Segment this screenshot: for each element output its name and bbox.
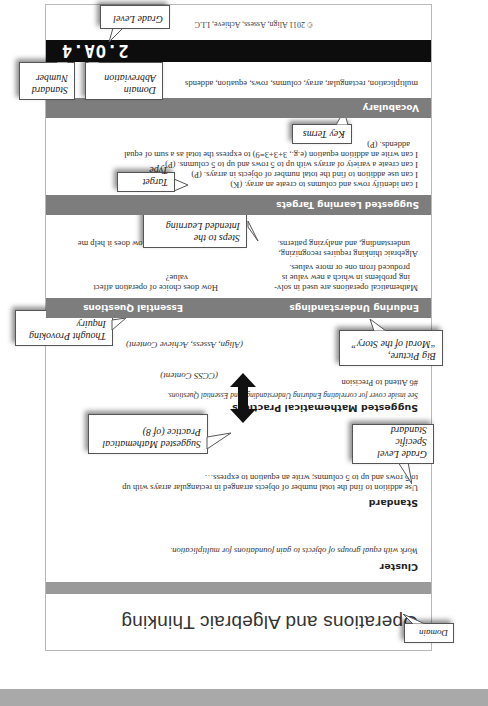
callout-domain: Domain — [404, 623, 454, 643]
practices-label: Suggested Mathematical Practices — [232, 403, 418, 414]
rotated-page: Operations and Algebraic Thinking Domain… — [0, 0, 488, 706]
callout-suggested-practice-tail — [206, 431, 231, 451]
callout-target-type-tail — [174, 177, 188, 191]
learning-target: I can create a variety of arrays with up… — [48, 160, 418, 170]
practices-note: See inside cover for correlating Endurin… — [167, 391, 418, 400]
vocabulary-header: Vocabulary — [46, 98, 431, 118]
callout-suggested-practice: Suggested Mathematical Practice (of 8) — [88, 414, 208, 454]
callout-domain-abbrev-line-2: Abbreviation — [92, 72, 156, 84]
callout-domain-text: Domain — [419, 628, 448, 638]
standard-line-2: to 5 rows and up to 5 columns; write an … — [48, 473, 418, 483]
callout-target-type: Target Type — [117, 172, 175, 192]
callout-domain-tail — [403, 614, 425, 624]
callout-thought-provoking-tail — [111, 316, 126, 330]
practice-item: #6 Attend to Precision — [341, 378, 418, 388]
learning-target: I can use addition to find the total num… — [48, 170, 418, 180]
standard-code: 2.OA.4 — [61, 40, 128, 62]
aaa-content-label: (Align, Assess, Achieve Content) — [126, 340, 243, 350]
callout-steps-line-2: Intended Learning — [150, 220, 240, 232]
learning-target: I can write an addition equation (e.g., … — [48, 150, 418, 160]
copyright: © 2011 Align, Assess, Achieve, LLC — [195, 20, 313, 29]
callout-big-picture: Big Picture, “Moral of the Story” — [339, 330, 443, 366]
callout-steps-tail — [246, 221, 260, 241]
callout-steps: Steps to the Intended Learning — [143, 210, 247, 248]
enduring-line: understanding, and analyzing patterns. — [243, 239, 418, 249]
callout-big-picture-tail — [368, 319, 388, 331]
callout-steps-line-1: Steps to the — [150, 232, 240, 244]
learning-targets-label: Suggested Learning Targets — [276, 195, 419, 215]
callout-standard-number-line-1: Standard — [26, 84, 68, 96]
enduring-line: produced from one or more values. — [243, 263, 418, 273]
standard-code-bar: 2.OA.4 — [46, 40, 431, 62]
double-arrow-icon — [230, 373, 256, 423]
callout-standard-number-line-2: Number — [26, 72, 68, 84]
callout-domain-abbrev: Domain Abbreviation — [85, 62, 163, 100]
learning-target: addends. (P) — [48, 140, 418, 150]
cluster-text: Work with equal groups of objects to gai… — [170, 546, 418, 556]
callout-grade-level: Grade Level — [100, 5, 170, 29]
callout-big-picture-line-1: Big Picture, — [346, 350, 436, 362]
learning-targets-header: Suggested Learning Targets — [46, 195, 431, 215]
essential-line: How does choice of operation affect — [48, 283, 218, 293]
callout-domain-abbrev-line-1: Domain — [92, 84, 156, 96]
callout-standard-number: Standard Number — [19, 62, 75, 100]
callout-thought-provoking-line-1: Thought Provoking — [22, 330, 106, 342]
callout-grade-specific-tail — [396, 462, 412, 484]
callout-grade-specific: Grade Level Specific Standard — [352, 424, 434, 464]
callout-grade-level-text: Grade Level — [113, 14, 163, 25]
callout-big-picture-line-2: “Moral of the Story” — [346, 338, 436, 350]
cluster-label: Cluster — [380, 562, 418, 573]
enduring-essential-header: Enduring Understandings Essential Questi… — [46, 298, 431, 318]
enduring-line: ing problems in which a new value is — [243, 273, 418, 283]
enduring-line: Mathematical operations are used in solv… — [243, 283, 418, 293]
standard-line-1: Use addition to find the total number of… — [48, 483, 418, 493]
learning-target: I can identify rows and columns to creat… — [48, 180, 418, 190]
top-gray-bar — [0, 689, 488, 706]
enduring-list: Mathematical operations are used in solv… — [243, 239, 418, 293]
title-divider — [46, 582, 431, 594]
standard-text: Use addition to find the total number of… — [48, 473, 418, 493]
callout-key-terms-text: Key Terms — [303, 129, 345, 140]
ccss-content-label: (CCSS Content) — [160, 371, 218, 381]
domain-title: Operations and Algebraic Thinking — [121, 611, 418, 633]
callout-grade-specific-line-2: Specific Standard — [359, 424, 427, 448]
vocabulary-label: Vocabulary — [363, 98, 419, 118]
essential-line: value? — [48, 273, 218, 283]
learning-targets-list: I can identify rows and columns to creat… — [48, 140, 418, 190]
callout-thought-provoking-line-2: Inquiry — [22, 318, 106, 330]
enduring-line: Algebraic thinking requires recognizing, — [243, 249, 418, 259]
callout-suggested-practice-line-2: Practice (of 8) — [95, 426, 201, 438]
essential-label: Essential Questions — [83, 298, 183, 318]
callout-grade-specific-line-1: Grade Level — [359, 448, 427, 460]
enduring-label: Enduring Understandings — [290, 298, 420, 318]
callout-suggested-practice-line-1: Suggested Mathematical — [95, 438, 201, 450]
callout-key-terms: Key Terms — [292, 124, 352, 144]
standard-label: Standard — [369, 498, 418, 509]
